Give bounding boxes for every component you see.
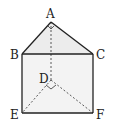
label-e: E [10, 108, 19, 122]
label-b: B [10, 48, 19, 62]
label-d: D [39, 72, 49, 86]
label-c: C [96, 48, 105, 62]
face-bcfe [22, 54, 93, 113]
label-f: F [96, 108, 104, 122]
label-a: A [45, 7, 55, 21]
prism-diagram: A B C D E F [0, 0, 113, 124]
